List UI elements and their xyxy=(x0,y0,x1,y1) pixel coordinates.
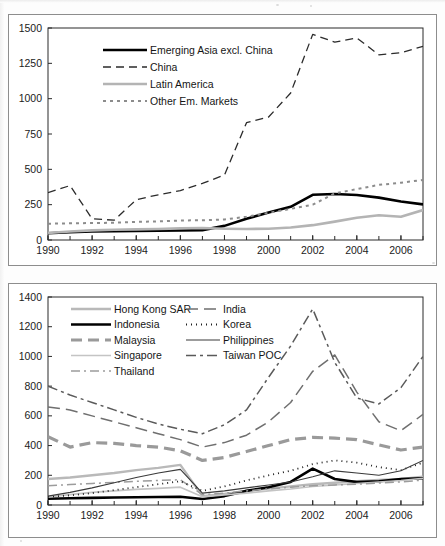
bottom-chart-panel: 0200400600800100012001400199019921994199… xyxy=(8,283,437,538)
scan-speck xyxy=(20,540,22,542)
scan-edge-top xyxy=(0,0,445,3)
top-chart-panel: 0250500750100012501500199019921994199619… xyxy=(8,14,437,266)
top-panel-frame xyxy=(8,14,437,266)
scan-speck xyxy=(276,4,279,6)
bottom-panel-frame xyxy=(8,283,437,538)
scan-speck xyxy=(310,5,312,7)
scan-edge-left xyxy=(0,0,5,546)
scan-speck xyxy=(432,262,435,264)
page-root: 0250500750100012501500199019921994199619… xyxy=(0,0,445,546)
